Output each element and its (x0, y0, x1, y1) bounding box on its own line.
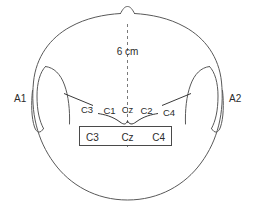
box-label-c3: C3 (86, 132, 99, 143)
scalp-label-c3: C3 (81, 104, 93, 115)
nose-outline (121, 7, 135, 14)
scalp-label-c1: C1 (104, 105, 116, 116)
box-label-cz: Cz (121, 132, 133, 143)
box-label-c4: C4 (152, 132, 165, 143)
scalp-label-c4: C4 (163, 107, 175, 118)
right-ear-inner (185, 67, 209, 125)
distance-label: 6 cm (117, 46, 139, 57)
left-ear-outline (37, 67, 46, 129)
diagram-canvas: C3 C1 Cz C2 C4 C3 Cz C4 6 cm A1 A2 (0, 0, 255, 212)
scalp-label-c2: C2 (141, 105, 153, 116)
right-ear-outline (210, 67, 219, 129)
ear-label-a2: A2 (229, 93, 242, 104)
left-ear-inner (46, 67, 70, 125)
scalp-label-cz: Cz (122, 104, 134, 115)
eeg-head-diagram: C3 C1 Cz C2 C4 C3 Cz C4 6 cm A1 A2 (0, 0, 255, 212)
ear-label-a1: A1 (14, 93, 27, 104)
